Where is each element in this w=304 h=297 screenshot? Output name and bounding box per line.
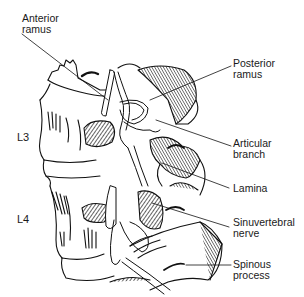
label-lamina: Lamina <box>233 183 267 194</box>
label-articular-branch: Articular branch <box>233 138 272 160</box>
vertebra-label-l4: L4 <box>17 213 29 225</box>
transverse-process-l3 <box>84 121 115 147</box>
vertebra-l3-body <box>40 60 109 163</box>
vertebra-label-l3: L3 <box>17 131 29 143</box>
label-sinuvertebral-nerve: Sinuvertebral nerve <box>233 217 295 239</box>
intervertebral-disc <box>43 160 100 186</box>
lamina-region <box>138 137 205 229</box>
leader-lines <box>22 34 231 265</box>
label-posterior-ramus: Posterior ramus <box>233 58 275 80</box>
lower-disc <box>62 258 115 281</box>
spinous-process-shape <box>110 222 222 290</box>
label-spinous-process: Spinous process <box>233 259 271 281</box>
label-anterior-ramus: Anterior ramus <box>22 13 59 35</box>
